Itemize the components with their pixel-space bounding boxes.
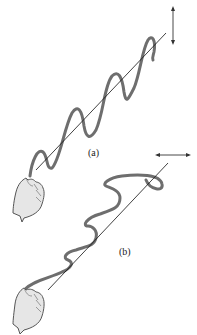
vertical-double-arrow-icon <box>171 6 175 45</box>
panel-label-a: (a) <box>88 147 99 158</box>
horizontal-double-arrow-icon <box>155 153 191 157</box>
axis-line-a <box>36 33 166 170</box>
rope-wave-b <box>24 175 162 290</box>
polarization-diagram <box>0 0 197 335</box>
panel-a <box>13 6 175 222</box>
hand-icon-a <box>13 178 44 222</box>
panel-b <box>13 153 191 334</box>
panel-label-b: (b) <box>119 246 131 257</box>
hand-icon-b <box>13 288 44 334</box>
